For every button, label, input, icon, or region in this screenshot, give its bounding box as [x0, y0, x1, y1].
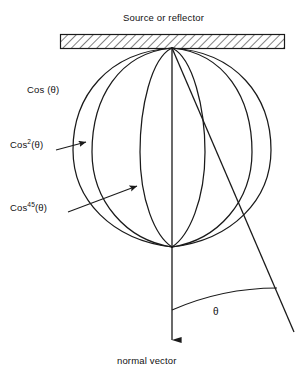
lobe-cos1-left	[73, 48, 172, 247]
label-cos2: Cos2(θ)	[10, 140, 43, 150]
lobe-cos2-left	[92, 48, 172, 247]
label-cos2-suffix: (θ)	[31, 139, 43, 150]
cosine-lobe-diagram: Source or reflector Cos (θ) Cos2(θ) Cos4…	[0, 0, 308, 378]
ray-line-stroke	[172, 48, 294, 332]
diagram-canvas	[0, 0, 308, 378]
lobe-cos45-right	[172, 48, 205, 247]
label-cos45-exponent: 45	[27, 201, 35, 208]
label-cos2-base: Cos	[10, 139, 27, 150]
leader-line-group	[56, 142, 137, 212]
angle-arc-path	[172, 288, 277, 310]
leader-line-cos2	[56, 142, 86, 150]
angle-theta-label: θ	[213, 306, 219, 317]
label-cos45-suffix: (θ)	[35, 202, 47, 213]
source-bar	[61, 35, 285, 49]
label-cos45: Cos45(θ)	[10, 203, 47, 213]
angle-arc	[172, 288, 277, 310]
lobe-cos2-right	[172, 48, 252, 247]
normal-vector-label: normal vector	[117, 356, 177, 366]
label-cos1: Cos (θ)	[27, 85, 59, 95]
label-cos1-text: Cos (θ)	[27, 84, 59, 95]
label-cos45-base: Cos	[10, 202, 27, 213]
lobe-cos1-right	[172, 48, 271, 247]
source-bar-rect	[61, 35, 285, 49]
ray-line	[172, 48, 294, 332]
leader-line-cos45	[68, 186, 137, 212]
lobe-cos45-left	[140, 48, 172, 247]
figure-title: Source or reflector	[123, 13, 204, 23]
